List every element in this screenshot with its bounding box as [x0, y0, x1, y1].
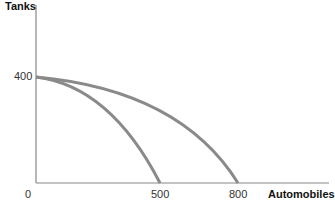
y-axis-title: Tanks: [5, 0, 36, 12]
x-axis-title: Automobiles: [268, 188, 335, 200]
y-tick-400: 400: [14, 70, 32, 82]
x-tick-0: 0: [25, 188, 31, 200]
x-tick-800: 800: [229, 188, 247, 200]
ppf-curve-outer: [36, 77, 238, 183]
x-tick-500: 500: [151, 188, 169, 200]
ppf-curve-inner: [36, 77, 160, 183]
